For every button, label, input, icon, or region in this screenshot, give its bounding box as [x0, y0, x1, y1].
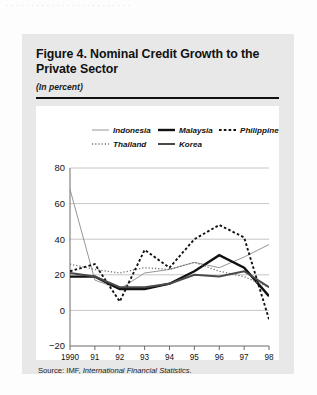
- y-axis-tick-label: 20: [55, 269, 65, 280]
- source-suffix: .: [190, 366, 192, 375]
- x-axis-tick-label: 94: [165, 353, 175, 360]
- figure-page: · · · · · · · · · · · · · · · · · · · · …: [0, 0, 317, 395]
- y-axis-tick-label: 0: [60, 305, 65, 316]
- x-axis-tick-label: 91: [90, 353, 100, 360]
- chart-legend: IndonesiaMalaysiaPhilippinesThailandKore…: [92, 126, 279, 149]
- series-group: [70, 189, 269, 319]
- line-chart: −2002040608019909192939495969798Indonesi…: [36, 106, 279, 360]
- figure-title: Figure 4. Nominal Credit Growth to the P…: [36, 47, 278, 77]
- figure-panel: Figure 4. Nominal Credit Growth to the P…: [22, 34, 294, 374]
- legend-label-indonesia: Indonesia: [113, 126, 151, 135]
- figure-subtitle: (In percent): [36, 82, 83, 92]
- x-axis-tick-label: 92: [115, 353, 125, 360]
- x-axis-tick-label: 1990: [61, 353, 80, 360]
- legend-label-philippines: Philippines: [240, 126, 279, 135]
- y-axis-tick-label: 40: [55, 234, 65, 245]
- y-axis-tick-label: 60: [55, 198, 65, 209]
- plot-card: −2002040608019909192939495969798Indonesi…: [36, 106, 279, 360]
- x-axis-tick-label: 95: [190, 353, 200, 360]
- x-axis-tick-label: 98: [264, 353, 274, 360]
- legend-label-korea: Korea: [179, 140, 202, 149]
- source-note: Source: IMF, International Financial Sta…: [38, 366, 192, 375]
- source-prefix: Source: IMF,: [38, 366, 81, 375]
- y-axis-tick-label: −20: [49, 340, 65, 351]
- clipped-header-text: · · · · · · · · · · · · · · · · · · · · …: [0, 0, 317, 10]
- x-axis-tick-label: 97: [240, 353, 250, 360]
- title-rule: [36, 97, 279, 99]
- x-axis-tick-label: 93: [140, 353, 150, 360]
- x-axis-tick-label: 96: [215, 353, 225, 360]
- legend-label-thailand: Thailand: [113, 140, 147, 149]
- y-axis-tick-label: 80: [55, 162, 65, 173]
- legend-label-malaysia: Malaysia: [179, 126, 213, 135]
- source-publication: International Financial Statistics: [83, 366, 190, 375]
